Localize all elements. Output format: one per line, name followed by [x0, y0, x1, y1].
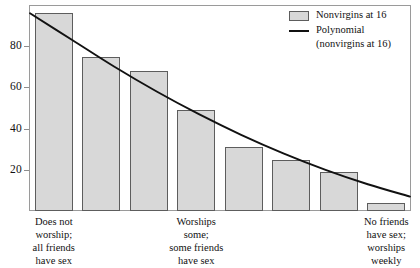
x-axis-category-label-line: have sex	[151, 254, 241, 267]
legend-item-bars: Nonvirgins at 16	[288, 9, 408, 22]
legend-label-polynomial-sub: (nonvirgins at 16)	[288, 38, 408, 51]
bar	[272, 160, 310, 212]
x-axis-category-label-line: have sex;	[341, 228, 420, 241]
legend-label-bars: Nonvirgins at 16	[310, 9, 386, 22]
x-axis-category-label-line: all friends	[9, 241, 99, 254]
bar	[225, 147, 263, 211]
bar	[35, 13, 73, 211]
bar	[130, 71, 168, 211]
bar	[320, 172, 358, 211]
legend-line-icon	[288, 24, 310, 37]
legend-swatch-icon	[288, 9, 310, 22]
x-axis-category-label-line: Worships	[151, 215, 241, 228]
legend-item-polynomial: Polynomial	[288, 24, 408, 37]
x-axis-category-label: Worshipssome;some friendshave sex	[151, 215, 241, 267]
x-axis-category-label-line: some;	[151, 228, 241, 241]
bar	[82, 57, 120, 212]
x-axis-category-label-line: Does not	[9, 215, 99, 228]
bar	[177, 110, 215, 211]
x-axis-category-label-line: worships	[341, 241, 420, 254]
x-axis-category-label-line: weekly	[341, 254, 420, 267]
x-axis-category-label-line: No friends	[341, 215, 420, 228]
chart-figure: 20406080 Nonvirgins at 16 Polynomial (no…	[0, 0, 420, 268]
x-axis-category-label-line: have sex	[9, 254, 99, 267]
legend-label-polynomial: Polynomial	[310, 24, 364, 37]
bar	[367, 203, 405, 211]
x-axis-category-label: Does notworship;all friendshave sex	[9, 215, 99, 267]
x-axis-category-label: No friendshave sex;worshipsweekly	[341, 215, 420, 267]
x-axis-category-label-line: some friends	[151, 241, 241, 254]
x-axis-category-label-line: worship;	[9, 228, 99, 241]
chart-legend: Nonvirgins at 16 Polynomial (nonvirgins …	[288, 9, 408, 51]
